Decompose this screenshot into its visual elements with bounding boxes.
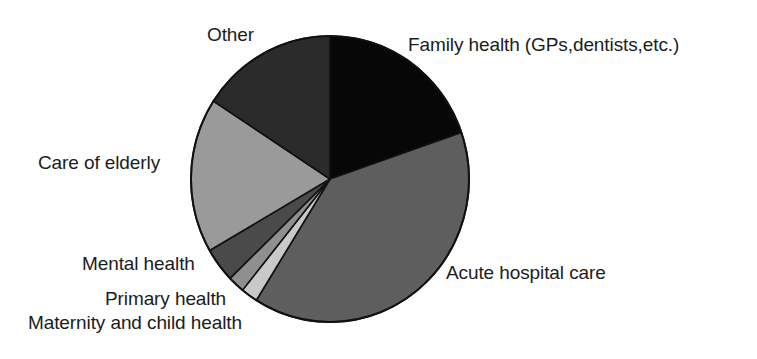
pie-chart: Family health (GPs,dentists,etc.) Acute … — [0, 0, 757, 359]
slice-label-care-of-elderly: Care of elderly — [38, 152, 160, 174]
slice-label-maternity-and-child-health: Maternity and child health — [28, 312, 242, 334]
slice-label-primary-health: Primary health — [105, 288, 226, 310]
pie-chart-screenshot: Family health (GPs,dentists,etc.) Acute … — [0, 0, 757, 359]
slice-label-family-health: Family health (GPs,dentists,etc.) — [408, 34, 679, 56]
slice-label-mental-health: Mental health — [82, 253, 195, 275]
slice-label-acute-hospital-care: Acute hospital care — [446, 262, 606, 284]
slice-label-other: Other — [207, 24, 254, 46]
